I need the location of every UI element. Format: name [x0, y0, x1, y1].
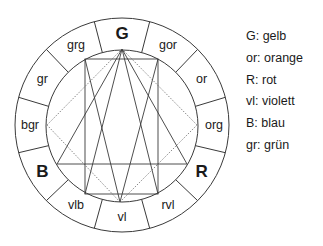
dashed-diamond — [47, 49, 197, 202]
segment-divider — [46, 180, 68, 201]
line-vl-rect-tr — [120, 59, 158, 202]
segment-divider — [142, 22, 150, 53]
rectangle — [85, 59, 158, 194]
legend-item-blau: B: blau — [246, 113, 303, 135]
segment-divider — [195, 146, 225, 153]
segment-label-or: or — [196, 72, 207, 86]
segment-divider — [94, 199, 102, 228]
segment-label-org: org — [205, 118, 223, 132]
line-g-rect-br — [122, 49, 158, 194]
segment-divider — [176, 180, 198, 201]
segment-dividers — [19, 22, 226, 229]
segment-label-vlb: vlb — [68, 198, 84, 212]
legend-item-rot: R: rot — [246, 70, 303, 92]
segment-label-rvl: rvl — [161, 198, 174, 212]
dash-vl-org — [120, 125, 197, 202]
segment-divider — [19, 146, 49, 153]
segment-label-vl: vl — [117, 210, 126, 224]
line-g-b — [57, 49, 122, 164]
line-g-r — [122, 49, 187, 164]
segment-label-bgr: bgr — [21, 118, 39, 132]
segment-divider — [94, 22, 102, 53]
segment-divider — [195, 97, 225, 106]
line-g-rect-bl — [85, 49, 122, 194]
segment-divider — [176, 49, 198, 72]
legend-item-violett: vl: violett — [246, 91, 303, 113]
legend-item-gelb: G: gelb — [246, 26, 303, 48]
segment-label-B: B — [36, 162, 48, 181]
segment-label-gor: gor — [159, 38, 177, 52]
legend: G: gelb or: orange R: rot vl: violett B:… — [246, 26, 303, 157]
segment-divider — [142, 199, 150, 228]
segment-label-grg: grg — [67, 38, 85, 52]
color-wheel: GgorororgRrvlvlvlbBbgrgrgrg — [0, 0, 240, 246]
segment-label-gr: gr — [37, 72, 48, 86]
segment-label-G: G — [115, 24, 128, 43]
segment-label-R: R — [196, 162, 208, 181]
dash-vl-bgr — [47, 125, 120, 202]
line-vl-rect-tl — [85, 59, 120, 202]
segment-divider — [19, 97, 49, 106]
inner-circle — [46, 50, 198, 202]
segment-divider — [46, 49, 68, 72]
inner-figure — [57, 49, 187, 202]
legend-item-gruen: gr: grün — [246, 135, 303, 157]
legend-item-orange: or: orange — [246, 48, 303, 70]
